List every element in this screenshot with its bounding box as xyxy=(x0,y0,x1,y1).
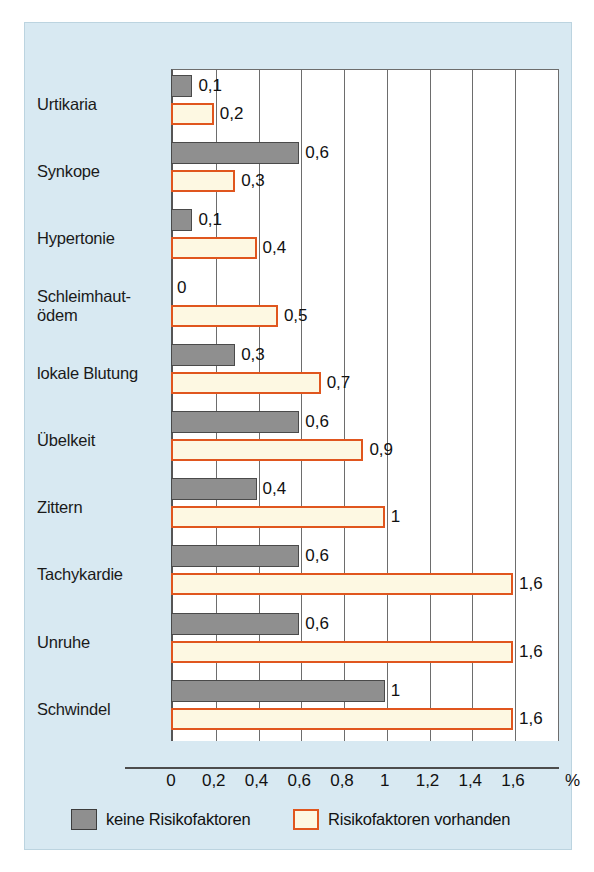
category-row: Schleimhaut-ödem00,5 xyxy=(25,271,571,338)
category-label: lokale Blutung xyxy=(37,364,165,383)
bar-keine-risikofaktoren xyxy=(171,209,192,231)
category-label: Schwindel xyxy=(37,700,165,719)
bar-value-label: 1,6 xyxy=(519,708,543,730)
bar-risikofaktoren-vorhanden xyxy=(171,305,278,327)
legend-label: Risikofaktoren vorhanden xyxy=(328,810,510,829)
bar-keine-risikofaktoren xyxy=(171,613,299,635)
bar-value-label: 1,6 xyxy=(519,641,543,663)
category-label: Hypertonie xyxy=(37,229,165,248)
category-label: Zittern xyxy=(37,498,165,517)
x-tick-label: 0,6 xyxy=(279,771,319,791)
bar-value-label: 0,6 xyxy=(305,613,329,635)
category-label-line: Unruhe xyxy=(37,633,165,652)
category-label-line: Synkope xyxy=(37,162,165,181)
bar-value-label: 0,1 xyxy=(198,75,222,97)
category-label: Unruhe xyxy=(37,633,165,652)
bar-risikofaktoren-vorhanden xyxy=(171,372,321,394)
category-label-line: Schleimhaut- xyxy=(37,287,165,306)
x-axis-baseline xyxy=(125,767,559,769)
category-label: Urtikaria xyxy=(37,95,165,114)
bar-keine-risikofaktoren xyxy=(171,344,235,366)
category-label-line: Tachykardie xyxy=(37,565,165,584)
bar-value-label: 0,9 xyxy=(369,439,393,461)
bar-value-label: 1,6 xyxy=(519,573,543,595)
bar-value-label: 0,3 xyxy=(241,170,265,192)
bar-value-label: 0 xyxy=(177,277,186,299)
bar-value-label: 0,7 xyxy=(327,372,351,394)
category-label-line: Zittern xyxy=(37,498,165,517)
bar-value-label: 0,6 xyxy=(305,545,329,567)
bar-keine-risikofaktoren xyxy=(171,411,299,433)
bar-keine-risikofaktoren xyxy=(171,142,299,164)
category-row: Hypertonie0,10,4 xyxy=(25,203,571,270)
category-label-line: Hypertonie xyxy=(37,229,165,248)
category-row: Zittern0,41 xyxy=(25,472,571,539)
bar-risikofaktoren-vorhanden xyxy=(171,439,363,461)
legend-item[interactable]: Risikofaktoren vorhanden xyxy=(293,809,510,830)
category-label-line: Übelkeit xyxy=(37,431,165,450)
bar-value-label: 0,6 xyxy=(305,411,329,433)
category-label-line: Schwindel xyxy=(37,700,165,719)
bar-risikofaktoren-vorhanden xyxy=(171,237,257,259)
legend-item[interactable]: keine Risikofaktoren xyxy=(71,809,251,830)
category-label: Tachykardie xyxy=(37,565,165,584)
bar-value-label: 0,5 xyxy=(284,305,308,327)
legend-label: keine Risikofaktoren xyxy=(106,810,251,829)
bar-keine-risikofaktoren xyxy=(171,545,299,567)
category-row: lokale Blutung0,30,7 xyxy=(25,338,571,405)
bar-value-label: 0,4 xyxy=(263,478,287,500)
bar-risikofaktoren-vorhanden xyxy=(171,506,385,528)
bar-value-label: 0,3 xyxy=(241,344,265,366)
bar-keine-risikofaktoren xyxy=(171,680,385,702)
bar-keine-risikofaktoren xyxy=(171,478,257,500)
bar-value-label: 1 xyxy=(391,680,400,702)
category-label-line: Urtikaria xyxy=(37,95,165,114)
bar-value-label: 0,2 xyxy=(220,103,244,125)
bar-value-label: 0,4 xyxy=(263,237,287,259)
bar-risikofaktoren-vorhanden xyxy=(171,641,513,663)
chart-figure: Urtikaria0,10,2Synkope0,60,3Hypertonie0,… xyxy=(24,22,572,850)
bar-risikofaktoren-vorhanden xyxy=(171,170,235,192)
x-tick-label: 0,4 xyxy=(237,771,277,791)
x-axis-unit-label: % xyxy=(565,771,580,791)
category-row: Unruhe0,61,6 xyxy=(25,607,571,674)
category-label: Übelkeit xyxy=(37,431,165,450)
category-row: Tachykardie0,61,6 xyxy=(25,539,571,606)
x-tick-label: 1,6 xyxy=(493,771,533,791)
category-label: Schleimhaut-ödem xyxy=(37,287,165,325)
x-tick-label: 0 xyxy=(151,771,191,791)
category-row: Übelkeit0,60,9 xyxy=(25,405,571,472)
category-row: Urtikaria0,10,2 xyxy=(25,69,571,136)
x-tick-label: 1,2 xyxy=(408,771,448,791)
x-tick-label: 1 xyxy=(365,771,405,791)
category-label: Synkope xyxy=(37,162,165,181)
x-tick-label: 0,2 xyxy=(194,771,234,791)
category-row: Schwindel11,6 xyxy=(25,674,571,741)
bar-value-label: 0,1 xyxy=(198,209,222,231)
legend-swatch-gray xyxy=(71,809,97,830)
category-label-line: ödem xyxy=(37,306,165,325)
bar-risikofaktoren-vorhanden xyxy=(171,573,513,595)
bar-risikofaktoren-vorhanden xyxy=(171,103,214,125)
category-row: Synkope0,60,3 xyxy=(25,136,571,203)
bar-risikofaktoren-vorhanden xyxy=(171,708,513,730)
x-tick-label: 1,4 xyxy=(450,771,490,791)
chart-legend: keine RisikofaktorenRisikofaktoren vorha… xyxy=(25,809,571,849)
x-tick-label: 0,8 xyxy=(322,771,362,791)
category-label-line: lokale Blutung xyxy=(37,364,165,383)
bar-keine-risikofaktoren xyxy=(171,75,192,97)
bar-value-label: 0,6 xyxy=(305,142,329,164)
legend-swatch-cream xyxy=(293,809,319,830)
bar-value-label: 1 xyxy=(391,506,400,528)
